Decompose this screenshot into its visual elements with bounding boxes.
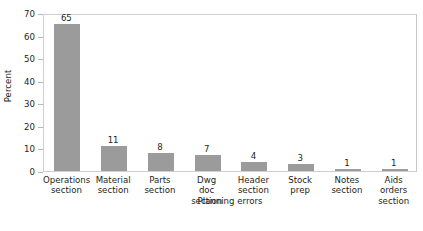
bar-value-label: 65 (46, 14, 86, 23)
x-axis-category-label-line: section (324, 185, 371, 195)
x-axis-category-label-line: Parts (137, 175, 184, 185)
x-axis-title: Planning errors (43, 196, 417, 206)
bar-value-label: 8 (140, 143, 180, 152)
x-axis-category-label-line: section (90, 185, 137, 195)
x-axis-category-label: Notessection (324, 175, 371, 196)
bar[interactable] (195, 155, 221, 171)
bar-value-label: 3 (280, 154, 320, 163)
y-axis-tick-label: 10 (24, 145, 35, 154)
pareto-bar-chart: Percent 010203040506070 6511874311 Opera… (0, 0, 423, 231)
bar-value-label: 11 (93, 136, 133, 145)
x-axis-category-label-line: section (137, 185, 184, 195)
x-axis-category-label-line: section (230, 185, 277, 195)
x-axis-category-label: Operationssection (43, 175, 90, 196)
y-axis-tick-label: 20 (24, 122, 35, 131)
y-axis-tick-mark (38, 172, 43, 173)
plot-frame (43, 14, 417, 172)
x-axis-category-label-line: Stock (277, 175, 324, 185)
y-axis-tick-label: 30 (24, 100, 35, 109)
x-axis-category-label-line: Header (230, 175, 277, 185)
bar[interactable] (335, 169, 361, 171)
x-axis-category-label: Headersection (230, 175, 277, 196)
y-axis-tick-label: 60 (24, 32, 35, 41)
x-axis-category-label-line: orders (370, 185, 417, 195)
x-axis-category-label-line: section (43, 185, 90, 195)
bar[interactable] (241, 162, 267, 171)
y-axis-tick-label: 70 (24, 10, 35, 19)
x-axis-category-label-line: Operations (43, 175, 90, 185)
x-axis-category-label-line: Dwg (183, 175, 230, 185)
bar-value-label: 1 (374, 159, 414, 168)
bar-value-label: 1 (327, 159, 367, 168)
bar[interactable] (54, 24, 80, 171)
x-axis-category-label-line: Notes (324, 175, 371, 185)
bar-value-label: 4 (233, 152, 273, 161)
y-axis-title: Percent (0, 0, 16, 172)
x-axis-category-label-line: doc (183, 185, 230, 195)
x-axis-category-label: Materialsection (90, 175, 137, 196)
plot-area (44, 15, 416, 171)
y-axis-tick-label: 0 (30, 168, 35, 177)
x-axis-category-label-line: prep (277, 185, 324, 195)
bar[interactable] (148, 153, 174, 171)
y-axis-tick-labels: 010203040506070 (16, 14, 38, 172)
y-axis-title-text: Percent (3, 70, 13, 103)
x-axis-category-label-line: Material (90, 175, 137, 185)
x-axis-category-label-line: Aids (370, 175, 417, 185)
bar[interactable] (382, 169, 408, 171)
y-axis-tick-label: 40 (24, 77, 35, 86)
bar-value-label: 7 (187, 145, 227, 154)
x-axis-category-label: Partssection (137, 175, 184, 196)
x-axis-category-label: Stockprep (277, 175, 324, 196)
bar[interactable] (288, 164, 314, 171)
bar[interactable] (101, 146, 127, 171)
y-axis-tick-label: 50 (24, 55, 35, 64)
